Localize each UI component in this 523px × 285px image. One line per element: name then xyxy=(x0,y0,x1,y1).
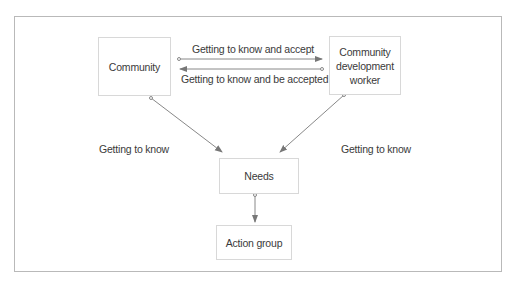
node-community: Community xyxy=(98,37,171,96)
edge-label-know-and-be-accepted: Getting to know and be accepted xyxy=(181,73,328,85)
edge-label-right-getting-to-know: Getting to know xyxy=(341,143,411,155)
node-community-label: Community xyxy=(109,60,160,74)
node-action-group-label: Action group xyxy=(226,236,283,250)
edge-label-know-and-accept: Getting to know and accept xyxy=(192,43,314,55)
node-community-development-worker: Community development worker xyxy=(329,36,401,95)
node-cdw-label: Community development worker xyxy=(333,45,397,87)
arrow-cdw-to-needs xyxy=(280,95,344,152)
node-needs: Needs xyxy=(219,158,299,194)
edge-label-left-getting-to-know: Getting to know xyxy=(99,143,169,155)
node-action-group: Action group xyxy=(216,225,292,260)
node-needs-label: Needs xyxy=(244,169,273,183)
